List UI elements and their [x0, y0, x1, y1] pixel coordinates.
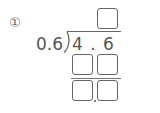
work-row-2-box-2[interactable]	[97, 80, 118, 101]
divisor: 0.6	[36, 34, 63, 54]
division-bar	[67, 31, 121, 32]
decimal-point	[94, 100, 96, 102]
division-bracket-icon	[62, 31, 70, 53]
problem-number: ①	[8, 15, 22, 31]
dividend: 4 . 6	[72, 34, 115, 54]
quotient-answer-box[interactable]	[97, 8, 118, 29]
work-row-2-box-1[interactable]	[72, 80, 93, 101]
work-row-1-box-2[interactable]	[97, 54, 118, 75]
subtraction-rule	[71, 78, 121, 79]
work-row-1-box-1[interactable]	[72, 54, 93, 75]
